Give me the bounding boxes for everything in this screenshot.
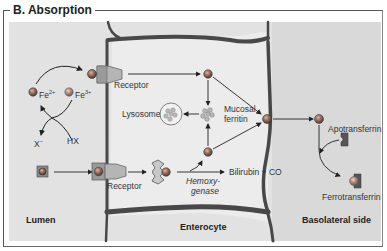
iron-ion-cytosolic	[204, 70, 213, 79]
lysosome-label: Lysosome	[122, 109, 160, 119]
receptor-top-label: Receptor	[114, 80, 149, 90]
fe2-label: Fe2+	[39, 87, 55, 100]
redox-arrows	[36, 66, 82, 140]
fe3-label: Fe3+	[75, 87, 91, 100]
iron-ion-free	[204, 148, 213, 157]
iron-ion-export	[263, 115, 272, 124]
heme-icon	[37, 166, 48, 177]
ferrotransferrin-label: Ferrotransferrin	[322, 192, 381, 202]
fe3-ion-icon	[65, 88, 73, 96]
bilirubin-co-label: Bilirubin + CO	[229, 167, 282, 177]
lumen-label: Lumen	[26, 215, 56, 225]
mucosal-ferritin-label: Mucosalferritin	[224, 104, 256, 124]
enterocyte-label: Enterocyte	[180, 222, 227, 232]
iron-ion-basolateral	[315, 115, 324, 124]
receptor-bottom-label: Receptor	[107, 181, 142, 191]
fe2-ion-icon	[29, 88, 37, 96]
basolateral-side-label: Basolateral side	[302, 215, 371, 225]
hemoxygenase-label: Hemoxy-genase	[186, 176, 220, 196]
lysosome-icon	[160, 103, 182, 125]
hx-label: HX	[67, 136, 79, 146]
x-minus-label: X−	[34, 136, 43, 149]
receptor-bottom-icon	[92, 163, 126, 180]
apotransferrin-label: Apotransferrin	[328, 124, 381, 134]
iron-ion-receptor-top	[88, 70, 97, 79]
